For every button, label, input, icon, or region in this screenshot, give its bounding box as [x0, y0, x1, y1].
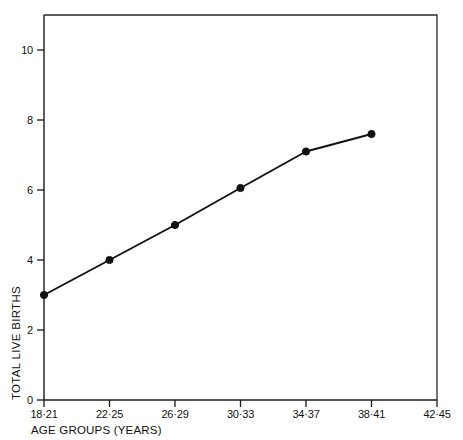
data-point-38-41	[368, 130, 375, 137]
x-tick-label-26-29: 26·29	[161, 408, 188, 420]
line-chart-svg: 0 2 4 6 8 10 18·21 22·25 26·29 30·33 34·…	[0, 0, 463, 440]
data-point-34-37	[302, 148, 309, 155]
x-tick-label-30-33: 30·33	[227, 408, 254, 420]
y-tick-label-10: 10	[21, 44, 33, 56]
y-tick-label-2: 2	[27, 324, 33, 336]
data-point-22-25	[106, 256, 113, 263]
y-tick-label-6: 6	[27, 184, 33, 196]
y-axis-title: TOTAL LIVE BIRTHS	[10, 286, 22, 400]
y-tick-label-8: 8	[27, 114, 33, 126]
chart-figure: 0 2 4 6 8 10 18·21 22·25 26·29 30·33 34·…	[0, 0, 463, 440]
chart-background	[0, 0, 463, 440]
x-axis-title: AGE GROUPS (YEARS)	[31, 424, 162, 436]
y-tick-label-0: 0	[27, 394, 33, 406]
data-point-18-21	[40, 291, 47, 298]
x-tick-label-42-45: 42·45	[423, 408, 450, 420]
x-tick-label-38-41: 38·41	[358, 408, 385, 420]
data-point-26-29	[171, 221, 178, 228]
data-point-30-33	[237, 184, 244, 191]
x-tick-label-22-25: 22·25	[96, 408, 123, 420]
x-tick-label-34-37: 34·37	[292, 408, 319, 420]
x-tick-label-18-21: 18·21	[30, 408, 57, 420]
y-tick-label-4: 4	[27, 254, 33, 266]
